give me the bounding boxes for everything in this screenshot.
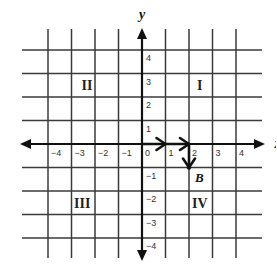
x-axis-label: x: [274, 136, 277, 151]
x-axis-right-arrow-icon: [254, 139, 265, 149]
x-tick-label: 1: [169, 148, 174, 158]
y-tick-label: −4: [146, 241, 156, 251]
y-tick-label: −2: [146, 194, 156, 204]
x-tick-label: −2: [98, 148, 108, 158]
quadrant-label-i: I: [197, 78, 202, 93]
x-tick-label: −3: [75, 148, 85, 158]
y-axis-down-arrow-icon: [137, 250, 147, 261]
y-tick-label: 1: [146, 124, 151, 134]
quadrant-label-ii: II: [81, 78, 92, 93]
y-axis-label: y: [137, 7, 146, 22]
quadrant-label-iv: IV: [192, 196, 208, 211]
x-tick-label: −4: [51, 148, 61, 158]
x-tick-label: 2: [192, 148, 197, 158]
x-tick-label: 4: [239, 148, 244, 158]
y-tick-label: 3: [146, 77, 151, 87]
y-tick-label: −3: [146, 218, 156, 228]
x-tick-label: 0: [145, 148, 150, 158]
x-axis-left-arrow-icon: [20, 139, 31, 149]
tick-labels: −4−3−2−1012344321−1−2−3−4: [51, 53, 244, 251]
x-tick-label: 3: [216, 148, 221, 158]
quadrant-label-iii: III: [74, 196, 90, 211]
y-axis-up-arrow-icon: [137, 28, 147, 39]
coordinate-plane: −4−3−2−1012344321−1−2−3−4 IIIIIIIV B y x: [0, 0, 276, 268]
y-tick-label: −1: [146, 171, 156, 181]
point-b-dot: [187, 165, 191, 169]
y-tick-label: 2: [146, 100, 151, 110]
x-tick-label: −1: [122, 148, 132, 158]
point-b-label: B: [194, 170, 204, 185]
y-tick-label: 4: [146, 53, 151, 63]
